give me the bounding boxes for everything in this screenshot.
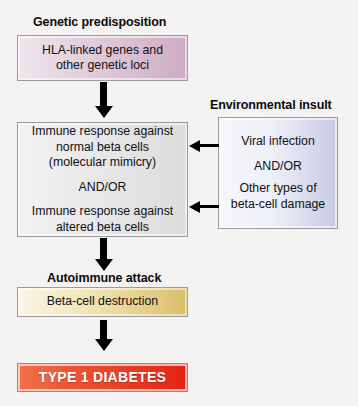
box-environmental-connector: AND/OR <box>225 159 331 175</box>
box-immune-line-4: Immune response against <box>24 204 181 220</box>
box-diabetes-text: TYPE 1 DIABETES <box>18 370 187 386</box>
box-immune-line-2: normal beta cells <box>24 140 181 156</box>
spacer <box>24 195 181 204</box>
box-environmental-insult: Viral infection AND/OR Other types of be… <box>218 117 338 229</box>
arrow-betacell-to-diabetes <box>100 320 107 340</box>
box-environmental-text: Viral infection AND/OR Other types of be… <box>219 134 337 212</box>
box-immune-line-3: (molecular mimicry) <box>24 155 181 171</box>
spacer <box>225 150 331 159</box>
box-immune-connector: AND/OR <box>24 180 181 196</box>
box-type-1-diabetes: TYPE 1 DIABETES <box>17 363 188 392</box>
box-betacell-line-1: Beta-cell destruction <box>24 294 181 310</box>
heading-autoimmune-attack: Autoimmune attack <box>47 272 161 285</box>
box-diabetes-line-1: TYPE 1 DIABETES <box>24 370 181 386</box>
arrow-immune-to-betacell <box>100 238 107 260</box>
box-environmental-line-1: Viral infection <box>225 134 331 150</box>
box-genetic-line-1: HLA-linked genes and <box>24 43 181 59</box>
arrow-genetic-to-immune <box>100 82 107 107</box>
heading-genetic-predisposition: Genetic predisposition <box>33 16 166 29</box>
box-environmental-line-3: beta-cell damage <box>225 197 331 213</box>
box-betacell-destruction: Beta-cell destruction <box>17 287 188 317</box>
box-immune-line-1: Immune response against <box>24 124 181 140</box>
box-immune-text: Immune response against normal beta cell… <box>18 124 187 235</box>
box-environmental-line-2: Other types of <box>225 181 331 197</box>
box-genetic-text: HLA-linked genes and other genetic loci <box>18 43 187 74</box>
heading-environmental-insult: Environmental insult <box>210 99 332 112</box>
box-immune-line-5: altered beta cells <box>24 220 181 236</box>
diagram-canvas: Genetic predisposition HLA-linked genes … <box>0 0 358 406</box>
arrow-environmental-to-immune-top <box>199 144 219 147</box>
box-genetic-predisposition: HLA-linked genes and other genetic loci <box>17 35 188 81</box>
spacer <box>24 171 181 180</box>
box-betacell-text: Beta-cell destruction <box>18 294 187 310</box>
spacer <box>225 174 331 181</box>
box-immune-response: Immune response against normal beta cell… <box>17 122 188 237</box>
arrow-environmental-to-immune-bottom <box>199 205 219 208</box>
box-genetic-line-2: other genetic loci <box>24 58 181 74</box>
